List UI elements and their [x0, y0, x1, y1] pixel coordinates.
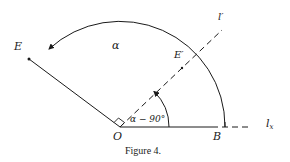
- label-alpha: α: [112, 39, 120, 52]
- point-E-prime: [181, 67, 183, 69]
- label-E: E: [13, 40, 22, 53]
- label-B: B: [212, 130, 221, 143]
- figure-4-diagram: E α E′ l′ α − 90° O B lx Figure 4.: [0, 0, 290, 162]
- line-l-prime-dashed: [120, 30, 222, 127]
- label-alpha-minus-90: α − 90°: [130, 114, 165, 124]
- label-E-prime: E′: [173, 49, 184, 60]
- label-lx: lx: [266, 117, 274, 131]
- right-angle-mark: [114, 118, 125, 127]
- figure-caption: Figure 4.: [125, 145, 161, 156]
- label-O: O: [113, 130, 122, 143]
- label-l-prime: l′: [218, 11, 224, 22]
- point-E: [28, 58, 31, 61]
- line-OE: [29, 59, 120, 127]
